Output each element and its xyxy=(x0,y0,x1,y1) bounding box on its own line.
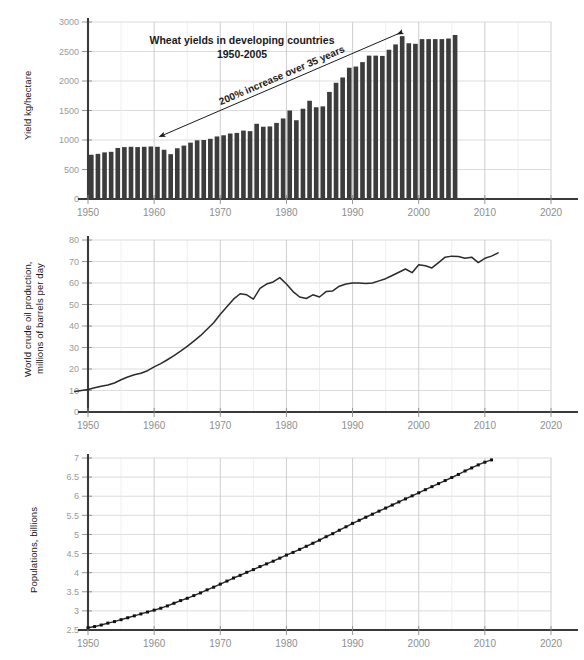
population-markers xyxy=(87,458,493,629)
bar xyxy=(433,39,438,199)
bar xyxy=(281,118,286,199)
data-point-marker xyxy=(384,507,387,510)
population-line xyxy=(88,460,491,628)
bar xyxy=(228,134,233,199)
data-point-marker xyxy=(397,500,400,503)
data-point-marker xyxy=(133,614,136,617)
data-point-marker xyxy=(298,548,301,551)
data-point-marker xyxy=(192,594,195,597)
bar xyxy=(241,131,246,199)
data-point-marker xyxy=(305,545,308,548)
data-point-marker xyxy=(179,599,182,602)
data-point-marker xyxy=(166,604,169,607)
bar xyxy=(301,109,306,199)
chart-title-wheat: Wheat yields in developing countries xyxy=(150,34,335,46)
data-point-marker xyxy=(391,504,394,507)
y-tick-label: 3.5 xyxy=(66,587,79,597)
data-point-marker xyxy=(424,488,427,491)
data-point-marker xyxy=(219,583,222,586)
y-tick-label: 2500 xyxy=(59,47,79,57)
bar xyxy=(426,39,431,199)
oil-production-plot: 0102030405060708019501960197019801990200… xyxy=(0,222,584,440)
y-tick-label: 5 xyxy=(74,530,79,540)
bar xyxy=(287,111,292,200)
x-tick-label: 2000 xyxy=(408,207,431,218)
bar xyxy=(268,126,273,199)
data-point-marker xyxy=(338,529,341,532)
bar xyxy=(393,44,398,199)
bar xyxy=(162,150,167,199)
bar xyxy=(208,139,213,199)
chart-panel-wheat-yields: Yield kg/hectare 05001000150020002500300… xyxy=(0,0,584,222)
bar xyxy=(387,50,392,199)
data-point-marker xyxy=(139,612,142,615)
data-point-marker xyxy=(371,513,374,516)
data-point-marker xyxy=(278,557,281,560)
data-point-marker xyxy=(331,532,334,535)
x-tick-label: 2010 xyxy=(474,638,497,649)
data-point-marker xyxy=(477,463,480,466)
gridlines xyxy=(88,240,551,412)
bar-series xyxy=(89,35,457,199)
data-point-marker xyxy=(450,476,453,479)
x-tick-label: 1960 xyxy=(143,638,166,649)
bar xyxy=(182,146,187,199)
data-point-marker xyxy=(225,580,228,583)
bar xyxy=(248,131,253,199)
bar xyxy=(221,135,226,199)
x-tick-label: 1970 xyxy=(209,638,232,649)
x-tick-label: 1960 xyxy=(143,420,166,431)
bar xyxy=(155,147,160,199)
bar xyxy=(115,148,120,199)
data-point-marker xyxy=(464,469,467,472)
data-point-marker xyxy=(258,565,261,568)
bar xyxy=(135,147,140,199)
population-plot: 2.533.544.555.566.5719501960197019801990… xyxy=(0,440,584,660)
y-tick-label: 6.5 xyxy=(66,472,79,482)
three-panel-chart-figure: Yield kg/hectare 05001000150020002500300… xyxy=(0,0,584,660)
bar xyxy=(327,92,332,199)
bar xyxy=(354,67,359,199)
x-tick-label: 1980 xyxy=(275,207,298,218)
bar xyxy=(89,155,94,199)
data-point-marker xyxy=(358,519,361,522)
bar xyxy=(380,56,385,199)
bar xyxy=(201,140,206,199)
bar xyxy=(188,143,193,199)
bar xyxy=(307,101,312,199)
data-point-marker xyxy=(417,491,420,494)
bar xyxy=(235,133,240,199)
x-tick-label: 1970 xyxy=(209,207,232,218)
y-tick-label: 60 xyxy=(69,278,79,288)
data-point-marker xyxy=(186,597,189,600)
data-point-marker xyxy=(87,626,90,629)
y-tick-label: 70 xyxy=(69,257,79,267)
bar xyxy=(294,120,299,199)
wheat-yields-plot: 0500100015002000250030001950196019701980… xyxy=(0,0,584,222)
bar xyxy=(261,127,266,199)
bar xyxy=(109,152,114,199)
bar xyxy=(129,147,134,199)
x-tick-label: 2020 xyxy=(540,207,563,218)
bar xyxy=(274,123,279,199)
data-point-marker xyxy=(325,535,328,538)
y-axis: 2.533.544.555.566.57 xyxy=(66,453,92,635)
bar xyxy=(168,154,173,199)
data-point-marker xyxy=(311,542,314,545)
data-point-marker xyxy=(318,539,321,542)
y-tick-label: 40 xyxy=(69,321,79,331)
data-point-marker xyxy=(364,516,367,519)
chart-subtitle-wheat: 1950-2005 xyxy=(217,48,267,60)
bar xyxy=(360,62,365,199)
data-point-marker xyxy=(153,609,156,612)
y-tick-label: 30 xyxy=(69,343,79,353)
bar xyxy=(400,36,405,199)
bar xyxy=(215,136,220,199)
x-tick-label: 2010 xyxy=(474,207,497,218)
y-tick-label: 20 xyxy=(69,364,79,374)
y-tick-label: 3000 xyxy=(59,17,79,27)
y-tick-label: 500 xyxy=(64,165,79,175)
y-tick-label: 4 xyxy=(74,568,79,578)
data-point-marker xyxy=(146,611,149,614)
bar xyxy=(440,39,445,199)
